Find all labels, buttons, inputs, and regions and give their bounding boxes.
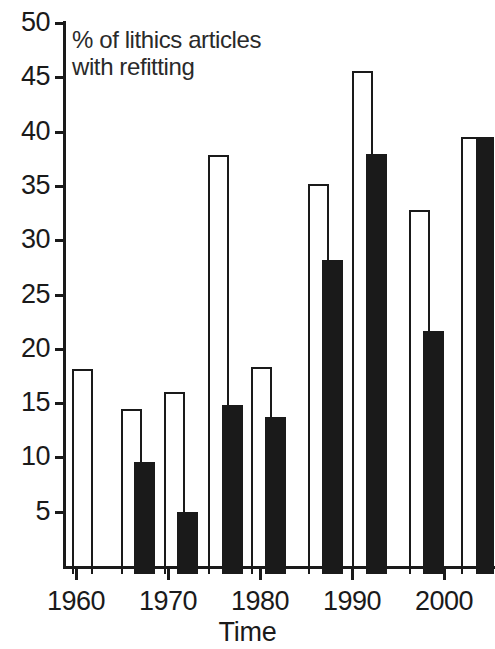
y-tick-label-text: 15 bbox=[2, 389, 50, 416]
y-tick-label-text: 20 bbox=[2, 335, 50, 362]
y-tick-label-text: 40 bbox=[2, 118, 50, 145]
y-tick-label-text: 50 bbox=[2, 9, 50, 36]
y-tick-label: 25 bbox=[0, 281, 50, 308]
bar bbox=[366, 154, 387, 574]
y-tick-label-text: 10 bbox=[2, 443, 50, 470]
y-tick-label-text: 45 bbox=[2, 63, 50, 90]
bar bbox=[265, 417, 286, 574]
y-tick-label: 40 bbox=[0, 118, 50, 145]
y-tick-label: 45 bbox=[0, 63, 50, 90]
bar bbox=[322, 260, 343, 574]
bar bbox=[477, 137, 494, 574]
y-tick-label: 30 bbox=[0, 226, 50, 253]
bar bbox=[177, 512, 198, 574]
bar bbox=[461, 137, 478, 574]
x-tick-mark bbox=[259, 569, 262, 580]
chart-root: 5101520253035404550 % of lithics article… bbox=[0, 0, 495, 649]
bar bbox=[423, 331, 444, 574]
x-tick-mark bbox=[75, 569, 78, 580]
x-tick-mark bbox=[351, 569, 354, 580]
x-tick-mark bbox=[167, 569, 170, 580]
y-tick-label: 50 bbox=[0, 9, 50, 36]
x-tick-label: 1990 bbox=[307, 586, 397, 616]
y-tick-label: 10 bbox=[0, 443, 50, 470]
y-tick-label-text: 35 bbox=[2, 172, 50, 199]
x-axis-line bbox=[63, 566, 495, 569]
y-tick-label: 20 bbox=[0, 335, 50, 362]
bars-layer bbox=[63, 18, 495, 570]
x-tick-mark bbox=[443, 569, 446, 580]
x-tick-label: 1970 bbox=[123, 586, 213, 616]
y-tick-label: 15 bbox=[0, 389, 50, 416]
bar bbox=[72, 369, 93, 574]
x-axis-title: Time bbox=[0, 618, 495, 647]
y-tick-label-text: 30 bbox=[2, 226, 50, 253]
x-tick-label: 2000 bbox=[399, 586, 489, 616]
y-tick-label: 35 bbox=[0, 172, 50, 199]
y-tick-label-text: 5 bbox=[2, 498, 50, 525]
y-tick-label: 5 bbox=[0, 498, 50, 525]
bar bbox=[222, 405, 243, 574]
y-tick-label-text: 25 bbox=[2, 281, 50, 308]
bar bbox=[134, 462, 155, 574]
x-tick-label: 1980 bbox=[215, 586, 305, 616]
x-tick-label: 1960 bbox=[31, 586, 121, 616]
